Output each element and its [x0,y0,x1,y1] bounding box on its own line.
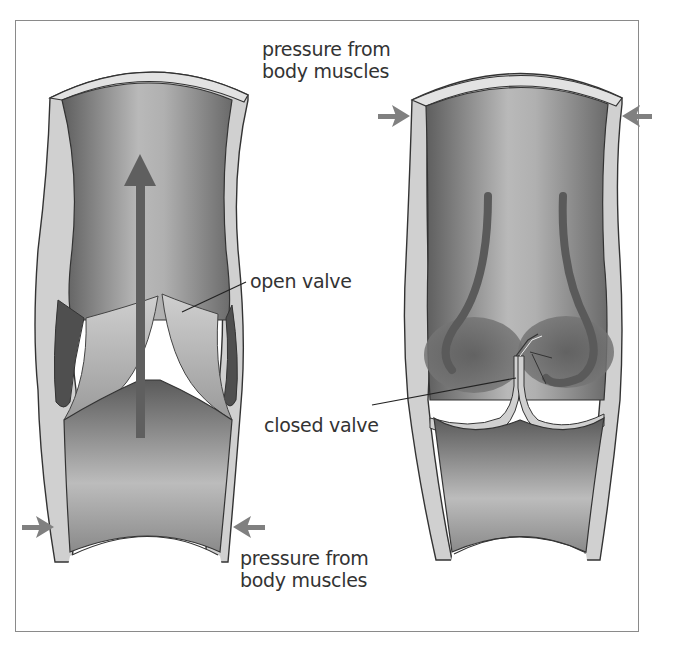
closed-valve-label: closed valve [264,414,379,436]
right-valve-pocket-left [424,317,524,393]
left-vein-upper-lumen [62,83,232,320]
pressure-arrow-right-bottom-icon [233,516,265,538]
pressure-label-top-line1: pressure from [262,38,390,60]
right-vein-lower-lumen [434,418,604,552]
pressure-label-top-line2: body muscles [262,60,390,82]
pressure-label-bottom-line2: body muscles [240,569,368,591]
pressure-arrow-left-top-icon [378,105,410,127]
open-valve-label: open valve [250,270,352,292]
left-vein-lower-lumen [64,380,232,552]
pressure-label-top: pressure from body muscles [262,38,390,82]
pressure-arrow-right-top-icon [622,105,652,127]
right-valve-pocket-right [518,316,614,388]
left-vein-open [22,72,265,566]
pressure-label-bottom: pressure from body muscles [240,547,368,591]
right-vein-closed [372,73,652,566]
pressure-label-bottom-line1: pressure from [240,547,368,569]
